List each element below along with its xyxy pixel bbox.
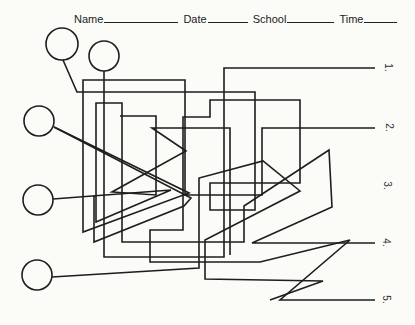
maze-path-5[interactable] <box>52 161 323 300</box>
end-label-4: 4. <box>381 238 392 246</box>
start-circle-3[interactable] <box>24 106 54 136</box>
line-tracing-maze <box>0 0 415 325</box>
end-label-1: 1. <box>383 63 394 71</box>
maze-path-2[interactable] <box>104 68 375 257</box>
start-circle-5[interactable] <box>22 260 52 290</box>
maze-path-4[interactable] <box>53 103 375 243</box>
start-circle-1[interactable] <box>46 28 78 60</box>
end-label-2: 2. <box>384 123 395 131</box>
end-label-3: 3. <box>382 181 393 189</box>
start-circle-4[interactable] <box>23 185 53 215</box>
maze-path-inner[interactable] <box>112 116 230 255</box>
maze-path-1[interactable] <box>63 60 375 300</box>
end-label-5: 5. <box>381 295 392 303</box>
start-circle-2[interactable] <box>89 41 119 71</box>
